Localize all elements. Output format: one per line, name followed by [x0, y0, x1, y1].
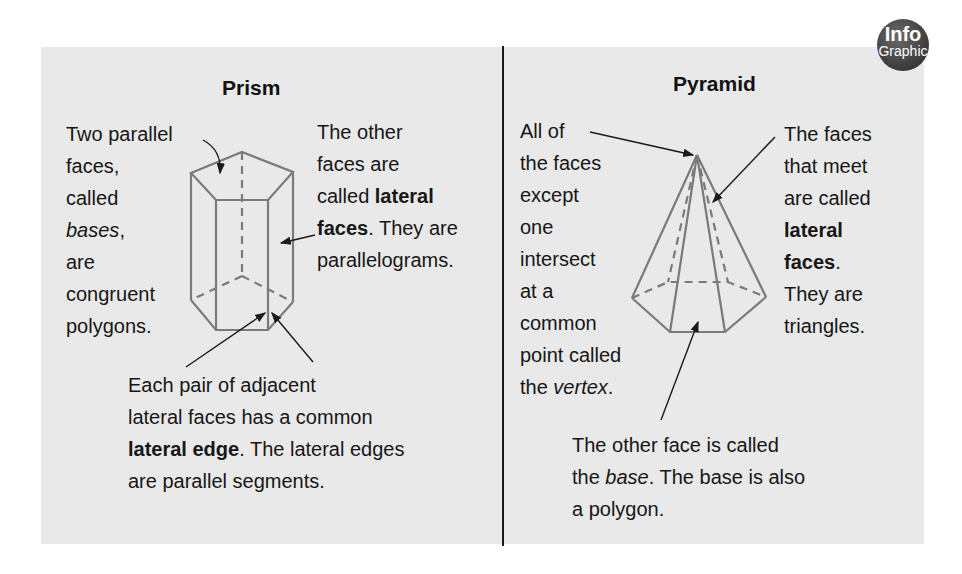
pyramid-vertex-note: All of the faces except one intersect at…	[520, 115, 621, 403]
prism-figure	[191, 152, 293, 330]
pyramid-lateral-faces-note: The faces that meet are called lateral f…	[784, 118, 872, 342]
prism-lateral-faces-note: The other faces are called lateral faces…	[317, 116, 458, 276]
pyramid-base-note: The other face is called the base. The b…	[572, 429, 805, 525]
pyramid-figure	[632, 155, 766, 332]
prism-arrows	[186, 140, 315, 367]
prism-bases-note: Two parallel faces, called bases, are co…	[66, 118, 173, 342]
prism-lateral-edge-note: Each pair of adjacent lateral faces has …	[128, 369, 404, 497]
